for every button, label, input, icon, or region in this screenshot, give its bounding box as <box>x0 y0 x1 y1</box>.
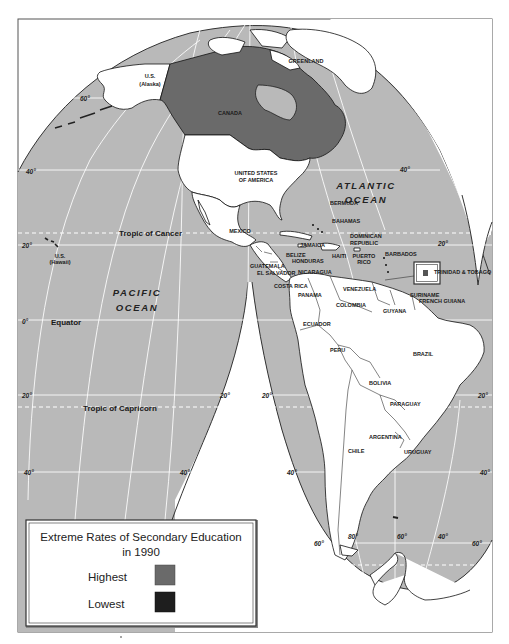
region-puerto-rico <box>354 248 360 251</box>
label-usa-2: OF AMERICA <box>239 177 274 183</box>
label-greenland: GREENLAND <box>289 58 324 64</box>
legend-label-highest: Highest <box>88 571 128 583</box>
label-venezuela: VENEZUELA <box>343 286 376 292</box>
label-french-guiana: FRENCH GUIANA <box>419 298 465 304</box>
deg-60w: 60° <box>397 533 407 540</box>
legend: Extreme Rates of Secondary Education in … <box>26 520 258 628</box>
deg-40s-mid: 40° <box>179 469 190 476</box>
label-guatemala: GUATEMALA <box>250 263 285 269</box>
deg-60s-west: 60° <box>314 540 324 547</box>
label-panama: PANAMA <box>298 292 322 298</box>
label-equator: Equator <box>51 318 81 327</box>
label-honduras: HONDURAS <box>292 258 324 264</box>
deg-40w: 40° <box>437 533 448 540</box>
label-tropic-of-cancer: Tropic of Cancer <box>119 229 182 238</box>
deg-20s-mid: 20° <box>219 392 230 399</box>
label-usa: UNITED STATES <box>235 170 278 176</box>
label-peru: PERU <box>330 347 345 353</box>
deg-40n-west: 40° <box>25 168 36 175</box>
deg-20s-mid2: 20° <box>261 392 272 399</box>
label-alaska: (Alaska) <box>139 81 161 87</box>
label-pacific-2: OCEAN <box>116 302 158 313</box>
map-figure: ATLANTIC OCEAN PACIFIC OCEAN Tropic of C… <box>0 0 509 644</box>
label-chile: CHILE <box>348 448 365 454</box>
deg-20n-east: 20° <box>437 240 448 247</box>
legend-label-lowest: Lowest <box>88 598 125 610</box>
deg-60s-east: 60° <box>472 540 482 547</box>
deg-60n-west: 60° <box>80 95 90 102</box>
deg-40s-mid2: 40° <box>286 469 297 476</box>
label-el-salvador: EL SALVADOR <box>257 270 296 276</box>
label-colombia: COLOMBIA <box>336 302 366 308</box>
label-nicaragua: NICARAGUA <box>298 269 332 275</box>
label-uruguay: URUGUAY <box>404 449 432 455</box>
legend-title-line2: in 1990 <box>122 546 160 558</box>
legend-swatch-highest <box>155 565 175 585</box>
deg-80w: 80° <box>348 533 358 540</box>
label-atlantic-1: ATLANTIC <box>335 180 396 191</box>
label-argentina: ARGENTINA <box>369 434 402 440</box>
label-brazil: BRAZIL <box>413 351 434 357</box>
deg-20s-east: 20° <box>477 392 488 399</box>
label-barbados: BARBADOS <box>385 251 417 257</box>
legend-title-line1: Extreme Rates of Secondary Education <box>40 531 241 543</box>
legend-swatch-lowest <box>155 592 175 612</box>
label-jamaica: JAMAICA <box>300 242 325 248</box>
deg-40n-east: 40° <box>399 166 410 173</box>
deg-20s-west: 20° <box>21 392 32 399</box>
deg-20n-west: 20° <box>21 242 32 249</box>
deg-40s-east: 40° <box>479 469 490 476</box>
label-ecuador: ECUADOR <box>303 321 331 327</box>
map-canvas: ATLANTIC OCEAN PACIFIC OCEAN Tropic of C… <box>0 0 509 644</box>
label-puerto-rico-2: RICO <box>357 259 371 265</box>
label-trinidad-tobago: TRINIDAD & TOBAGO <box>434 269 492 275</box>
label-canada: CANADA <box>218 110 242 116</box>
label-bermuda: BERMUDA <box>330 200 358 206</box>
label-dominican-republic: DOMINICAN <box>350 233 382 239</box>
label-costa-rica: COSTA RICA <box>274 283 308 289</box>
label-us-alaska: U.S. <box>145 73 156 79</box>
deg-equator: 0° <box>22 318 29 325</box>
label-haiti: HAITI <box>332 253 347 259</box>
label-guyana: GUYANA <box>383 308 406 314</box>
label-bolivia: BOLIVIA <box>369 380 391 386</box>
label-paraguay: PARAGUAY <box>390 401 421 407</box>
label-dominican-republic-2: REPUBLIC <box>350 240 378 246</box>
label-tropic-of-capricorn: Tropic of Capricorn <box>83 404 157 413</box>
label-pacific-1: PACIFIC <box>113 287 162 298</box>
label-hawaii: (Hawaii) <box>49 259 70 265</box>
label-mexico: MEXICO <box>229 228 251 234</box>
label-bahamas: BAHAMAS <box>332 218 360 224</box>
deg-40s-west: 40° <box>23 469 34 476</box>
